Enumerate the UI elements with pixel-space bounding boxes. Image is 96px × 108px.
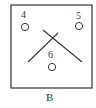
label-4: 4 xyxy=(21,10,26,20)
hole-4-circle xyxy=(21,23,28,30)
line-1 xyxy=(28,33,58,62)
label-6: 6 xyxy=(48,50,53,60)
hole-6-circle xyxy=(48,63,55,70)
label-5: 5 xyxy=(76,11,81,21)
hole-5-circle xyxy=(75,22,82,29)
caption-label: B xyxy=(46,92,53,102)
